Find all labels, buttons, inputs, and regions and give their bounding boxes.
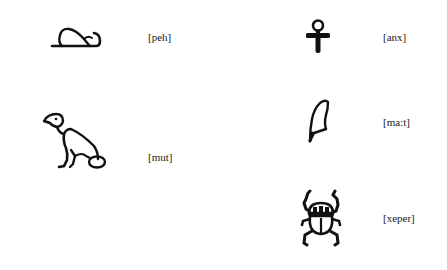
feather-icon: [306, 99, 332, 144]
ankh-icon: [305, 19, 331, 55]
scarab-icon: [299, 189, 343, 247]
vulture-icon: [42, 112, 108, 170]
transliteration-label: [ma:t]: [383, 116, 410, 128]
transliteration-label: [anx]: [383, 31, 406, 43]
lion-hindquarters-icon: [50, 25, 102, 49]
transliteration-label: [peh]: [148, 31, 171, 43]
transliteration-label: [xeper]: [383, 212, 415, 224]
transliteration-label: [mut]: [148, 151, 172, 163]
